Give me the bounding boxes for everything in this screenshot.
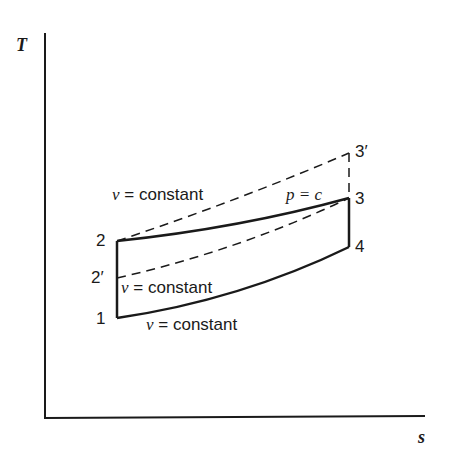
ts-diagram: [0, 0, 450, 461]
s-axis-label: s: [418, 428, 425, 446]
process-2-3-constant-pressure: [117, 198, 349, 241]
upper-v-constant-label: v = constant: [112, 186, 203, 203]
state-2-label: 2: [96, 232, 105, 249]
state-2prime-label: 2′: [91, 269, 104, 286]
state-4-label: 4: [355, 238, 364, 255]
v-symbol: v: [146, 315, 154, 334]
state-1-label: 1: [96, 310, 105, 327]
v-symbol: v: [121, 278, 129, 297]
v-symbol: v: [112, 185, 120, 204]
state-3prime-label: 3′: [355, 143, 368, 160]
s-axis: [45, 416, 425, 418]
t-axis-label: T: [16, 36, 27, 54]
state-3-label: 3: [355, 190, 364, 207]
lower-v-constant-label: v = constant: [146, 316, 237, 333]
mid-v-constant-label: v = constant: [121, 279, 212, 296]
constant-pressure-label: p = c: [286, 186, 322, 203]
